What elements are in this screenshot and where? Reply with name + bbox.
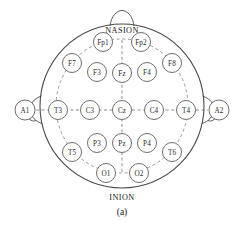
electrode-T4[interactable]: T4 (177, 101, 196, 120)
electrode-O2[interactable]: O2 (130, 164, 149, 183)
nasion-label: NASION (105, 26, 139, 35)
electrode-Cz[interactable]: Cz (113, 101, 132, 120)
electrode-label: F7 (68, 60, 76, 68)
electrode-P3[interactable]: P3 (88, 134, 107, 153)
electrode-F7[interactable]: F7 (63, 54, 82, 73)
electrode-Fp1[interactable]: Fp1 (94, 33, 113, 52)
electrode-label: O1 (102, 170, 111, 178)
electrode-label: Fp2 (135, 39, 147, 47)
electrode-label: Pz (118, 140, 125, 148)
electrode-F4[interactable]: F4 (138, 63, 157, 82)
electrode-label: O2 (135, 170, 144, 178)
electrode-label: Fz (118, 70, 125, 78)
eeg-diagram-svg: NASION INION Fp1 Fp2 F7 F3 (0, 0, 244, 226)
electrode-label: C4 (150, 107, 159, 115)
electrode-T6[interactable]: T6 (163, 143, 182, 162)
inion-label: INION (109, 193, 134, 202)
electrode-C4[interactable]: C4 (145, 101, 164, 120)
electrode-T3[interactable]: T3 (49, 101, 68, 120)
electrode-label: P3 (93, 140, 101, 148)
electrode-P4[interactable]: P4 (138, 134, 157, 153)
eeg-electrode-placement-figure: NASION INION Fp1 Fp2 F7 F3 (0, 0, 244, 226)
electrode-Fz[interactable]: Fz (113, 64, 132, 83)
electrode-label: A1 (21, 107, 30, 115)
electrode-A1[interactable]: A1 (15, 100, 35, 120)
electrode-label: A2 (215, 107, 224, 115)
electrode-label: T3 (54, 107, 62, 115)
figure-caption: (a) (117, 207, 128, 218)
electrode-Fp2[interactable]: Fp2 (132, 33, 151, 52)
electrode-F3[interactable]: F3 (88, 63, 107, 82)
electrode-label: T4 (182, 107, 190, 115)
electrode-T5[interactable]: T5 (63, 143, 82, 162)
electrode-label: F4 (143, 69, 151, 77)
electrode-Pz[interactable]: Pz (113, 134, 132, 153)
electrode-A2[interactable]: A2 (209, 100, 229, 120)
electrode-label: T5 (68, 149, 76, 157)
electrode-label: T6 (168, 149, 176, 157)
electrode-O1[interactable]: O1 (97, 164, 116, 183)
electrode-F8[interactable]: F8 (163, 54, 182, 73)
electrode-C3[interactable]: C3 (81, 101, 100, 120)
electrode-label: F8 (168, 60, 176, 68)
electrode-label: C3 (86, 107, 95, 115)
electrode-label: Cz (118, 107, 126, 115)
electrode-label: P4 (143, 140, 151, 148)
electrode-label: Fp1 (97, 39, 109, 47)
electrode-label: F3 (93, 69, 101, 77)
